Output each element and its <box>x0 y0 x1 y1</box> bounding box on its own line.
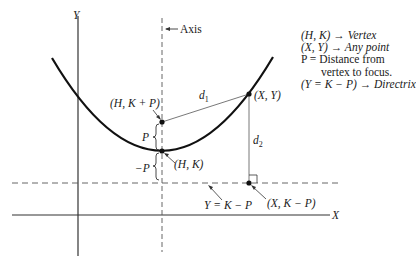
brace-minus-p <box>153 153 159 180</box>
vertex-label: (H, K) <box>174 158 203 170</box>
axis-of-symmetry-label: Axis <box>180 23 202 35</box>
focus-label: (H, K + P) <box>110 97 160 109</box>
directrix-foot-label: (X, K − P) <box>267 197 316 209</box>
vertex-point <box>159 148 164 153</box>
legend-any-point: (X, Y) → Any point <box>301 41 416 53</box>
p-label: P <box>142 131 149 143</box>
legend-p-definition-cont: vertex to focus. <box>301 66 416 78</box>
focus-point <box>159 119 164 124</box>
legend: (H, K) → Vertex (X, Y) → Any point P = D… <box>301 29 416 90</box>
y-axis-label: Y <box>73 9 79 21</box>
minus-p-label: −P <box>135 162 150 174</box>
directrix-leader-arrow <box>208 185 222 200</box>
directrix-foot-point <box>246 180 251 185</box>
x-axis-label: X <box>332 209 339 221</box>
directrix-equation-label: Y = K − P <box>204 199 252 211</box>
directrix-foot-leader-arrow <box>251 185 266 199</box>
legend-directrix: (Y = K − P) → Directrix <box>301 78 416 90</box>
any-point-label: (X, Y) <box>254 89 281 101</box>
d2-subscript: 2 <box>259 140 263 149</box>
parabola-curve <box>52 57 273 151</box>
any-point <box>246 91 251 96</box>
d1-label: d1 <box>199 89 209 106</box>
focus-leader-arrow <box>153 110 161 120</box>
d1-subscript: 1 <box>205 95 209 104</box>
legend-vertex: (H, K) → Vertex <box>301 29 416 41</box>
brace-p <box>153 124 159 150</box>
legend-p-definition: P = Distance from <box>301 53 416 65</box>
d2-label: d2 <box>253 134 263 151</box>
axis-arrow-icon <box>165 27 178 31</box>
